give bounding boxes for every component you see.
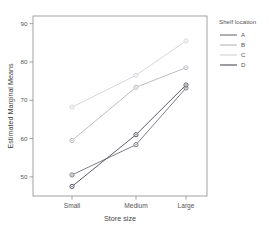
- series-line-D: [72, 85, 186, 186]
- data-point-center-D-Medium: [135, 134, 136, 135]
- data-point-center-B-Small: [71, 140, 72, 141]
- series-line-A: [72, 88, 186, 175]
- data-point-center-C-Small: [71, 106, 72, 107]
- x-tick-label: Large: [178, 202, 195, 210]
- data-point-center-C-Medium: [135, 75, 136, 76]
- legend-title: Shelf location: [219, 18, 257, 25]
- x-axis-title: Store size: [104, 214, 136, 223]
- x-tick-label: Medium: [124, 202, 148, 209]
- interaction-plot: 5060708090SmallMediumLargeStore sizeEsti…: [0, 0, 269, 250]
- y-tick-label: 90: [21, 20, 28, 27]
- y-axis-title: Estimated Marginal Means: [6, 63, 15, 148]
- legend-label-A: A: [241, 31, 246, 38]
- data-point-center-B-Medium: [135, 87, 136, 88]
- x-tick-label: Small: [64, 202, 81, 209]
- data-point-center-A-Large: [185, 87, 186, 88]
- y-tick-label: 50: [21, 173, 28, 180]
- data-point-center-D-Small: [71, 186, 72, 187]
- data-point-center-D-Large: [185, 84, 186, 85]
- legend-label-C: C: [241, 51, 246, 58]
- data-point-center-B-Large: [185, 67, 186, 68]
- y-tick-label: 70: [21, 96, 28, 103]
- legend-label-D: D: [241, 61, 246, 68]
- y-tick-label: 60: [21, 135, 28, 142]
- data-point-center-A-Small: [71, 174, 72, 175]
- chart-canvas: 5060708090SmallMediumLargeStore sizeEsti…: [0, 0, 269, 250]
- data-point-center-A-Medium: [135, 144, 136, 145]
- plot-frame: [33, 16, 207, 196]
- y-tick-label: 80: [21, 58, 28, 65]
- legend-label-B: B: [241, 41, 245, 48]
- data-point-center-C-Large: [185, 40, 186, 41]
